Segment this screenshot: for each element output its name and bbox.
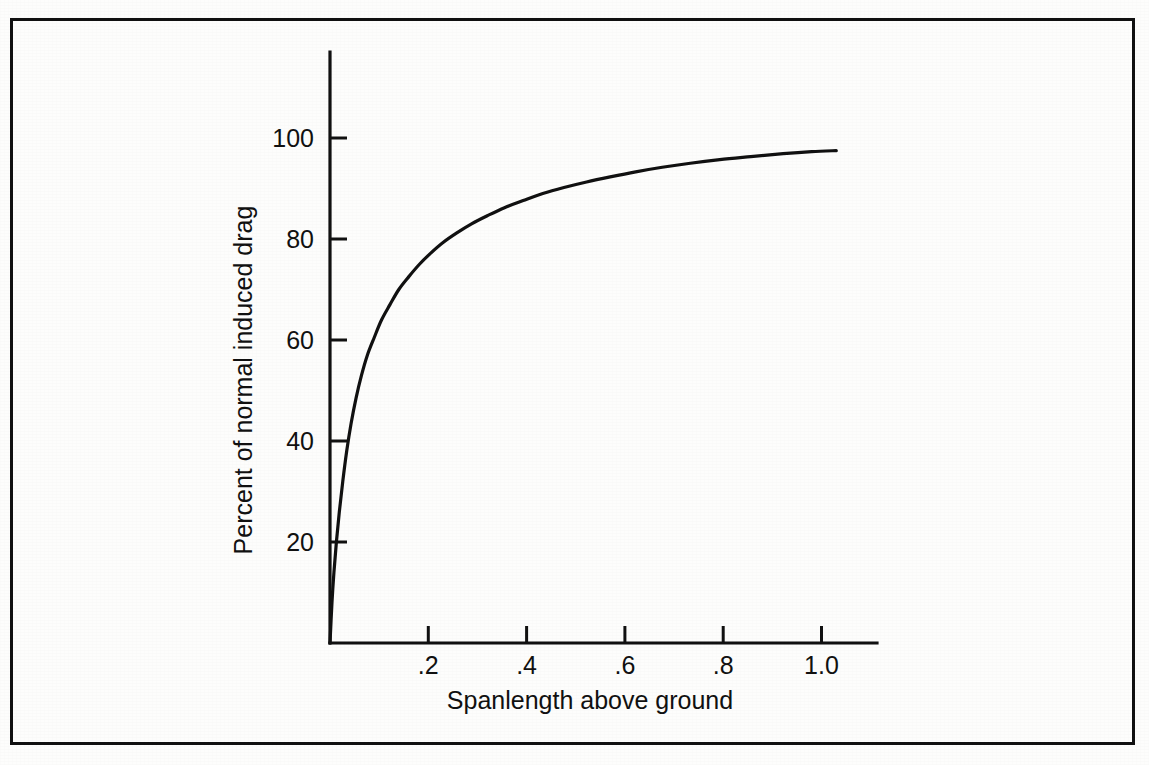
x-tick-label: .8 [713,651,734,679]
y-tick-label: 80 [286,225,314,253]
y-axis-tick-labels: 20406080100 [272,124,314,556]
y-tick-label: 100 [272,124,314,152]
y-axis-title: Percent of normal induced drag [229,206,257,555]
x-tick-label: 1.0 [804,651,839,679]
x-axis-tick-marks [428,626,821,643]
induced-drag-chart: 20406080100 .2.4.6.81.0 Spanlength above… [0,0,1149,765]
y-axis-tick-marks [330,138,347,542]
y-tick-label: 40 [286,427,314,455]
y-tick-label: 20 [286,528,314,556]
x-tick-label: .2 [418,651,439,679]
x-tick-label: .6 [614,651,635,679]
x-axis-title: Spanlength above ground [447,686,733,714]
induced-drag-curve [330,151,836,643]
y-tick-label: 60 [286,326,314,354]
x-axis-tick-labels: .2.4.6.81.0 [418,651,839,679]
x-tick-label: .4 [516,651,537,679]
figure-page: 20406080100 .2.4.6.81.0 Spanlength above… [0,0,1149,765]
